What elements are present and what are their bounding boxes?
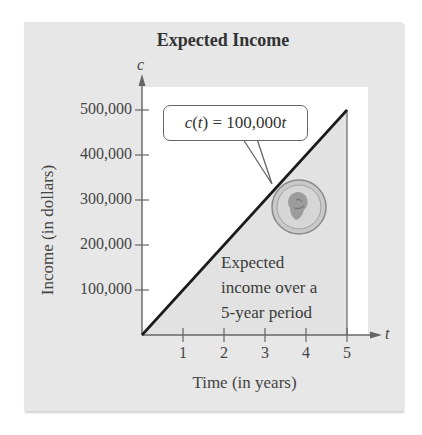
x-axis-variable: t bbox=[385, 325, 389, 343]
x-tick-label: 4 bbox=[296, 344, 316, 362]
area-label-line: Expected bbox=[221, 250, 317, 275]
quarter-coin-icon bbox=[272, 180, 326, 234]
x-tick-label: 2 bbox=[214, 344, 234, 362]
y-tick-label: 500,000 bbox=[32, 100, 132, 118]
y-axis-variable: c bbox=[137, 56, 144, 74]
shaded-area-label: Expected income over a 5-year period bbox=[221, 250, 317, 325]
x-tick-label: 5 bbox=[337, 344, 357, 362]
callout-fn: c bbox=[185, 113, 193, 132]
x-axis-title: Time (in years) bbox=[142, 373, 347, 393]
x-tick-label: 3 bbox=[255, 344, 275, 362]
y-axis-arrow-icon bbox=[139, 74, 146, 86]
callout-var: t bbox=[282, 113, 287, 132]
callout-eq: = 100,000 bbox=[213, 113, 282, 132]
function-callout: c(t) = 100,000t bbox=[163, 105, 308, 141]
x-tick-label: 1 bbox=[173, 344, 193, 362]
x-axis-arrow-icon bbox=[370, 332, 382, 339]
y-axis-title: Income (in dollars) bbox=[38, 140, 58, 320]
area-label-line: income over a bbox=[221, 275, 317, 300]
callout-arg: t bbox=[198, 113, 203, 132]
area-label-line: 5-year period bbox=[221, 300, 317, 325]
plot-area bbox=[0, 0, 422, 435]
